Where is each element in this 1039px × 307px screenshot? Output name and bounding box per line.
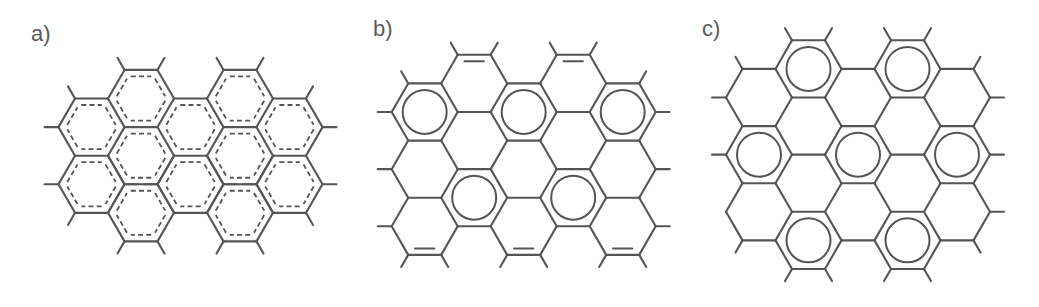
bond-line <box>392 169 409 198</box>
bond-line <box>441 55 458 84</box>
hexagonal-lattice-figure: a) b) c) <box>0 0 1039 307</box>
substituent-stub <box>924 28 931 40</box>
bond-line <box>776 240 793 269</box>
aromatic-circle <box>935 133 979 177</box>
bond-line <box>257 99 274 128</box>
bond-line <box>825 97 842 126</box>
bond-line <box>108 213 125 242</box>
substituent-stub <box>68 213 75 225</box>
bond-line <box>726 183 743 212</box>
bond-line <box>825 240 842 269</box>
bond-line <box>776 69 793 98</box>
bond-line <box>974 126 991 155</box>
bond-line <box>257 184 274 213</box>
bond-line <box>776 212 793 241</box>
panel-b: b) <box>373 16 670 267</box>
substituent-stub <box>257 58 264 70</box>
substituent-stub <box>118 241 125 253</box>
substituent-stub <box>974 240 981 252</box>
substituent-stub <box>217 241 224 253</box>
bond-line <box>59 127 76 156</box>
substituent-stub <box>158 241 165 253</box>
bond-line <box>158 99 175 128</box>
substituent-stub <box>306 213 313 225</box>
substituent-stub <box>68 86 75 98</box>
bond-line <box>108 127 125 156</box>
bonds <box>392 55 656 255</box>
panel-label-a: a) <box>31 21 51 46</box>
bond-line <box>924 183 941 212</box>
substituent-stub <box>884 269 891 281</box>
bond-line <box>825 212 842 241</box>
substituent-stub <box>118 58 125 70</box>
bond-line <box>639 141 656 170</box>
bond-line <box>875 98 892 127</box>
substituent-stub <box>217 58 224 70</box>
aromatic-sextet-rings <box>737 47 979 262</box>
bond-line <box>825 126 842 155</box>
bond-line <box>540 141 557 170</box>
bond-line <box>639 83 656 112</box>
bond-line <box>540 226 557 255</box>
substituent-stub <box>825 28 832 40</box>
structure-c <box>712 28 1004 281</box>
bond-line <box>392 141 409 170</box>
structure-b <box>378 43 670 267</box>
bond-line <box>590 55 607 84</box>
aromatic-circle <box>551 176 595 220</box>
bond-line <box>590 83 607 112</box>
bond-line <box>207 127 224 156</box>
substituent-stub <box>306 86 313 98</box>
bond-line <box>590 169 607 198</box>
bond-line <box>392 83 409 112</box>
bond-line <box>639 226 656 255</box>
bond-line <box>491 169 508 198</box>
bond-line <box>441 226 458 255</box>
substituent-stub <box>158 58 165 70</box>
bond-line <box>207 156 224 185</box>
bond-line <box>491 141 508 170</box>
substituent-stub <box>550 43 557 55</box>
substituent-stub <box>599 255 606 267</box>
bond-line <box>257 213 274 242</box>
bond-line <box>540 169 557 198</box>
bond-line <box>306 156 323 185</box>
bond-line <box>392 226 409 255</box>
aromatic-circle <box>737 133 781 177</box>
bond-line <box>639 169 656 198</box>
bond-line <box>491 83 508 112</box>
substituent-stubs <box>378 43 670 267</box>
bond-line <box>924 240 941 269</box>
bond-line <box>776 40 793 69</box>
bond-line <box>875 126 892 155</box>
bond-line <box>441 169 458 198</box>
bond-line <box>392 112 409 141</box>
bonds <box>59 70 323 241</box>
bond-line <box>776 98 793 127</box>
bond-line <box>875 40 892 69</box>
bond-line <box>924 69 941 98</box>
substituent-stub <box>540 255 547 267</box>
bond-line <box>776 126 793 155</box>
aromatic-circle <box>886 47 930 91</box>
substituent-stub <box>825 269 832 281</box>
bond-line <box>540 112 557 141</box>
bond-line <box>108 184 125 213</box>
substituent-stub <box>639 71 646 83</box>
substituent-stub <box>491 43 498 55</box>
substituent-stub <box>451 43 458 55</box>
aromatic-circle <box>787 47 831 91</box>
bond-line <box>491 198 508 227</box>
bond-line <box>639 198 656 227</box>
substituent-stub <box>401 71 408 83</box>
bond-line <box>108 156 125 185</box>
structure-a <box>45 58 337 254</box>
bond-line <box>924 40 941 69</box>
bond-line <box>392 198 409 227</box>
bond-line <box>207 99 224 128</box>
aromatic-circle <box>886 218 930 262</box>
substituent-stub <box>884 28 891 40</box>
bond-line <box>875 155 892 184</box>
bond-line <box>924 97 941 126</box>
bond-line <box>924 212 941 241</box>
